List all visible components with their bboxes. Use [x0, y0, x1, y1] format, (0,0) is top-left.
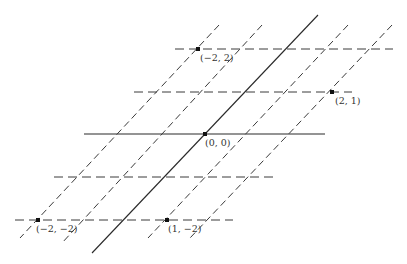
lattice-point: [196, 47, 200, 51]
point-label: (1, −2): [168, 223, 202, 234]
point-label: (0, 0): [205, 137, 231, 148]
lattice-point: [330, 90, 334, 94]
lattice-point: [203, 132, 207, 136]
slanted-line-col-1: [148, 25, 348, 238]
lattice-point: [165, 218, 169, 222]
lattice-point: [36, 218, 40, 222]
point-label: (−2, 2): [200, 52, 234, 63]
slanted-line-col-m2: [20, 25, 219, 238]
point-label: (2, 1): [335, 95, 361, 106]
point-label: (−2, −2): [36, 223, 77, 234]
lattice-diagram: (−2, 2)(2, 1)(0, 0)(−2, −2)(1, −2): [0, 0, 407, 264]
point-labels: (−2, 2)(2, 1)(0, 0)(−2, −2)(1, −2): [36, 52, 361, 234]
